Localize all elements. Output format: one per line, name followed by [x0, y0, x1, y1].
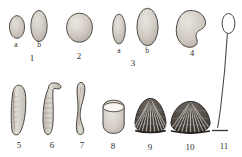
- figure-5-number: 5: [13, 141, 25, 150]
- figure-1a-label: a: [11, 41, 21, 49]
- figure-3b-ovoid: [135, 7, 161, 48]
- figure-10-ribbed-domed-shell: [169, 100, 213, 138]
- figure-1b-label: b: [34, 41, 44, 49]
- figure-11-stalked-capsule: [211, 12, 241, 138]
- figure-7-number: 7: [76, 141, 88, 150]
- figure-1-number: 1: [26, 54, 38, 63]
- figure-10-number: 10: [183, 143, 197, 152]
- figure-3a-ovoid: [111, 13, 128, 46]
- figure-4-number: 4: [186, 49, 198, 58]
- figure-7-sigmoid-capsule: [72, 81, 93, 137]
- figure-4-reniform: [174, 9, 209, 49]
- specimen-plate: a b 1 2: [0, 0, 242, 157]
- figure-3-number: 3: [127, 59, 139, 68]
- figure-11-number: 11: [216, 142, 232, 151]
- figure-5-capsule: [9, 84, 30, 137]
- figure-2-number: 2: [73, 52, 85, 61]
- figure-2-ovoid: [65, 12, 94, 44]
- figure-6-hooked-capsule: [40, 81, 65, 137]
- figure-9-ribbed-conical-shell: [131, 97, 171, 138]
- figure-8-number: 8: [107, 142, 119, 151]
- figure-9-number: 9: [144, 143, 156, 152]
- figure-3b-label: b: [142, 47, 152, 55]
- figure-3a-label: a: [114, 47, 124, 55]
- figure-1a-ovoid: [8, 14, 27, 40]
- figure-1b-ovoid: [29, 9, 50, 43]
- figure-8-barrel-cup: [100, 99, 128, 135]
- figure-6-number: 6: [46, 141, 58, 150]
